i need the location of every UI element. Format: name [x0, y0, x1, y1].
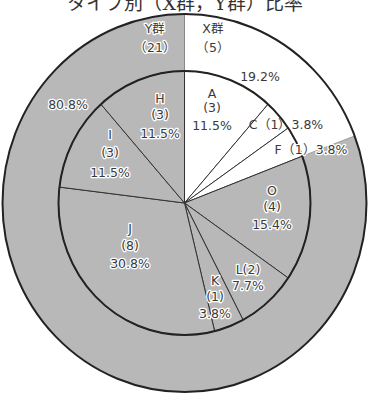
svg-text:I: I	[108, 127, 112, 142]
svg-text:(4): (4)	[263, 199, 281, 214]
svg-text:(3): (3)	[203, 100, 221, 115]
svg-text:（21）: （21）	[134, 40, 176, 55]
double-ring-pie-chart: Y群 （21） X群 （5） 19.2% 80.8% A (3) 11.5% C…	[0, 0, 370, 401]
label-L: L(2) 7.7%	[232, 262, 264, 293]
svg-text:K: K	[211, 273, 220, 288]
svg-text:A: A	[208, 86, 217, 101]
svg-text:(1): (1)	[206, 289, 224, 304]
svg-text:O: O	[267, 183, 277, 198]
svg-text:7.7%: 7.7%	[232, 278, 264, 293]
svg-text:30.8%: 30.8%	[110, 256, 150, 271]
svg-text:H: H	[155, 91, 164, 106]
svg-text:L(2): L(2)	[236, 262, 261, 277]
svg-text:(3): (3)	[101, 145, 119, 160]
svg-text:(3): (3)	[151, 107, 169, 122]
label-x-group-percent: 19.2%	[240, 69, 280, 84]
label-F: F（1）3.8%	[275, 142, 348, 157]
svg-text:J: J	[127, 221, 132, 236]
svg-text:11.5%: 11.5%	[140, 126, 180, 141]
label-C: C（1）3.8%	[249, 117, 324, 132]
svg-text:11.5%: 11.5%	[90, 165, 130, 180]
svg-text:(8): (8)	[121, 238, 139, 253]
label-y-group-percent: 80.8%	[48, 97, 88, 112]
svg-text:3.8%: 3.8%	[199, 306, 231, 321]
svg-text:15.4%: 15.4%	[252, 217, 292, 232]
svg-text:（5）: （5）	[196, 40, 230, 55]
svg-text:11.5%: 11.5%	[192, 118, 232, 133]
svg-text:Y群: Y群	[144, 21, 166, 36]
svg-text:X群: X群	[202, 21, 224, 36]
